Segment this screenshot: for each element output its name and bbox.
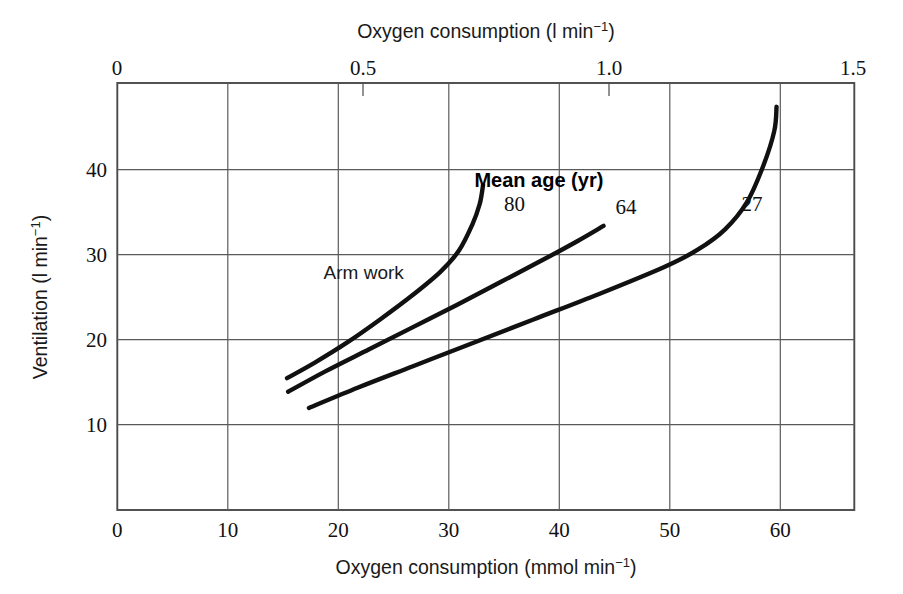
x-top-axis-title: Oxygen consumption (l min−1) (357, 19, 615, 42)
x-tick-label-50: 50 (659, 518, 680, 542)
curve-label-64: 64 (616, 195, 638, 219)
y-tick-label-20: 20 (86, 328, 107, 352)
y-tick-label-10: 10 (86, 413, 107, 437)
x-tick-label-30: 30 (438, 518, 459, 542)
y-tick-label-40: 40 (86, 158, 107, 182)
x-tick-label-40: 40 (549, 518, 570, 542)
y-tick-label-30: 30 (86, 243, 107, 267)
x-top-tick-label-1-0: 1.0 (596, 56, 622, 80)
y-axis-title: Ventilation (l min−1) (28, 215, 51, 379)
y-axis-title-exponent: −1 (28, 221, 43, 236)
y-axis-title-tail: ) (29, 215, 51, 222)
curve-label-80: 80 (504, 192, 525, 216)
curve-age-27 (309, 107, 777, 408)
x-top-axis-title-base: Oxygen consumption (l min (357, 20, 593, 42)
x-bottom-axis-title-tail: ) (630, 556, 637, 578)
x-top-axis-title-exponent: −1 (593, 19, 608, 34)
data-curves (287, 107, 777, 408)
y-axis-title-base: Ventilation (l min (29, 236, 51, 379)
curve-label-27: 27 (742, 192, 763, 216)
x-tick-label-60: 60 (770, 518, 791, 542)
ventilation-vs-oxygen-chart: Oxygen consumption (l min−1) 0 0.5 1.0 1… (0, 0, 903, 594)
x-bottom-axis-title-exponent: −1 (615, 555, 630, 570)
x-top-tick-label-0: 0 (112, 56, 123, 80)
x-tick-label-10: 10 (217, 518, 238, 542)
annotation-arm-work: Arm work (324, 262, 405, 283)
x-top-tick-label-1-5: 1.5 (840, 56, 866, 80)
x-bottom-axis-title: Oxygen consumption (mmol min−1) (336, 555, 637, 578)
legend-title-mean-age: Mean age (yr) (474, 169, 603, 191)
x-tick-label-20: 20 (328, 518, 349, 542)
x-top-axis-title-tail: ) (608, 20, 615, 42)
x-bottom-axis-title-base: Oxygen consumption (mmol min (336, 556, 616, 578)
x-top-tick-label-0-5: 0.5 (350, 56, 376, 80)
figure-container: Oxygen consumption (l min−1) 0 0.5 1.0 1… (0, 0, 903, 594)
x-tick-label-0: 0 (112, 518, 123, 542)
